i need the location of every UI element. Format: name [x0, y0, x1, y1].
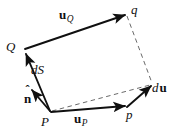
- label-du: du: [152, 81, 167, 94]
- label-u-Q: uQ: [59, 8, 73, 24]
- label-q: q: [131, 3, 138, 16]
- edge-normal-at-P: [32, 90, 50, 111]
- label-Q: Q: [6, 40, 15, 53]
- label-du-base: u: [159, 80, 167, 95]
- vector-surface-element-figure: uQ q Q dS ˆn P uP p du: [0, 0, 176, 135]
- edge-P-to-p: [51, 106, 125, 112]
- n-hat-wrapper: ˆn: [24, 92, 31, 105]
- edge-p-to-du: [127, 86, 151, 107]
- dashed-edge-q-to-du: [127, 16, 152, 83]
- dashed-edges-group: [52, 16, 152, 111]
- label-u-P-subscript: P: [81, 118, 87, 128]
- diagram-canvas: [0, 0, 176, 135]
- edge-Q-to-q: [25, 15, 125, 49]
- label-p-lower: p: [126, 108, 133, 121]
- label-u-Q-subscript: Q: [66, 14, 73, 24]
- circumflex-accent-icon: ˆ: [26, 84, 30, 96]
- label-u-P: uP: [74, 112, 87, 128]
- label-P: P: [41, 115, 49, 128]
- label-n-hat: ˆn: [24, 92, 31, 105]
- label-du-prefix: d: [152, 80, 159, 95]
- label-dS: dS: [31, 63, 44, 76]
